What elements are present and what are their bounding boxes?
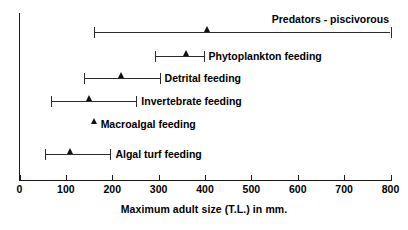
x-tick-label-0: 0 — [0, 183, 40, 196]
series-row: Invertebrate feeding — [0, 93, 408, 111]
range-cap-max — [110, 149, 111, 160]
range-cap-min — [155, 51, 156, 62]
x-tick-100 — [66, 175, 67, 181]
data-point-marker — [67, 148, 73, 154]
x-tick-600 — [298, 175, 299, 181]
range-line — [155, 56, 203, 57]
x-tick-label-100: 100 — [46, 183, 86, 196]
data-point-marker — [86, 95, 92, 101]
series-row: Detrital feeding — [0, 70, 408, 88]
series-label: Invertebrate feeding — [141, 95, 241, 107]
series-row: Phytoplankton feeding — [0, 48, 408, 66]
range-line — [45, 154, 110, 155]
data-point-marker — [118, 72, 124, 78]
x-tick-400 — [205, 175, 206, 181]
data-point-marker — [204, 26, 210, 32]
range-line — [94, 32, 391, 33]
series-row: Predators - piscivorous — [0, 24, 408, 42]
x-tick-200 — [112, 175, 113, 181]
series-row: Macroalgal feeding — [0, 116, 408, 134]
series-row: Algal turf feeding — [0, 146, 408, 164]
range-line — [51, 101, 137, 102]
series-label: Algal turf feeding — [115, 148, 201, 160]
range-cap-min — [51, 96, 52, 107]
range-chart: 0100200300400500600700800 Predators - pi… — [0, 0, 408, 230]
x-tick-label-200: 200 — [92, 183, 132, 196]
x-tick-label-600: 600 — [278, 183, 318, 196]
series-label: Macroalgal feeding — [101, 118, 196, 130]
range-cap-min — [84, 73, 85, 84]
x-tick-label-400: 400 — [185, 183, 225, 196]
range-cap-min — [45, 149, 46, 160]
x-tick-500 — [251, 175, 252, 181]
range-cap-max — [136, 96, 137, 107]
x-tick-0 — [20, 175, 21, 181]
range-cap-max — [391, 27, 392, 38]
x-tick-800 — [391, 175, 392, 181]
x-tick-label-300: 300 — [139, 183, 179, 196]
x-axis-title: Maximum adult size (T.L.) in mm. — [0, 203, 408, 215]
series-label: Predators - piscivorous — [272, 13, 389, 25]
x-tick-label-800: 800 — [371, 183, 408, 196]
data-point-marker — [91, 118, 97, 124]
x-tick-label-500: 500 — [231, 183, 271, 196]
series-label: Phytoplankton feeding — [209, 50, 322, 62]
range-cap-max — [160, 73, 161, 84]
range-line — [84, 78, 159, 79]
range-cap-max — [204, 51, 205, 62]
x-tick-label-700: 700 — [324, 183, 364, 196]
x-tick-300 — [159, 175, 160, 181]
range-cap-min — [94, 27, 95, 38]
series-label: Detrital feeding — [165, 72, 241, 84]
data-point-marker — [183, 50, 189, 56]
x-tick-700 — [344, 175, 345, 181]
